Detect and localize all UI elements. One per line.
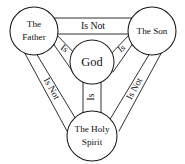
node-label-holyspirit-line2: Spirit — [82, 137, 103, 147]
band-father-son: Is Not — [47, 18, 139, 34]
band-label-father-son: Is Not — [81, 20, 105, 31]
band-son-holyspirit: Is Not — [106, 48, 164, 131]
node-label-father-line2: Father — [22, 32, 45, 42]
node-label-father-line1: The — [27, 19, 41, 29]
node-label-holyspirit-line1: The Holy — [75, 124, 110, 134]
trinity-diagram-canvas: Is Not Is Not Is Not Is — [0, 0, 185, 164]
node-label-god: God — [81, 55, 103, 69]
trinity-diagram: Is Not Is Not Is Not Is — [0, 0, 185, 164]
band-label-god-holyspirit: Is — [86, 93, 96, 100]
node-son: The Son — [128, 7, 176, 55]
node-holy-spirit: The Holy Spirit — [67, 111, 117, 161]
node-father: The Father — [10, 7, 58, 55]
band-god-holyspirit: Is — [83, 80, 101, 114]
node-label-son: The Son — [137, 26, 168, 36]
node-god: God — [70, 40, 114, 84]
